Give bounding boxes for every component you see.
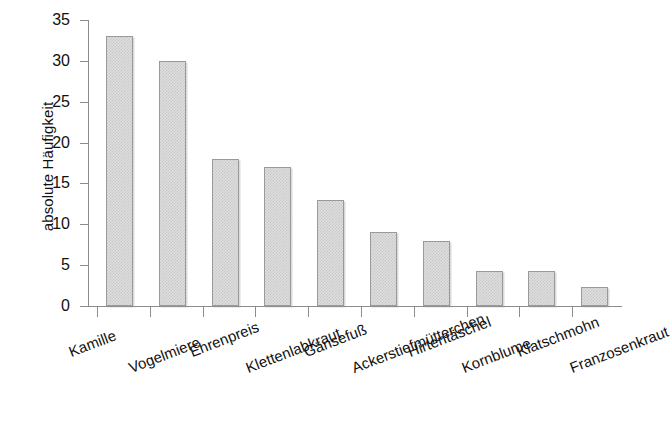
y-tick-label: 10 xyxy=(30,216,70,232)
x-axis-label: Gänsefuß xyxy=(301,321,368,359)
x-axis-label: Ehrenpreis xyxy=(188,319,261,359)
x-axis-label: Klatschmohn xyxy=(515,314,601,359)
bar xyxy=(581,287,608,306)
x-tick-mark xyxy=(414,307,415,317)
x-tick-mark xyxy=(308,307,309,317)
x-axis-label: Kornblume xyxy=(460,335,533,375)
x-tick-mark xyxy=(97,307,98,317)
x-tick-mark xyxy=(467,307,468,317)
x-axis-label: Vogelmiere xyxy=(127,334,202,375)
y-tick-mark xyxy=(80,306,89,307)
x-tick-mark xyxy=(203,307,204,317)
bar xyxy=(476,271,503,306)
x-tick-mark xyxy=(361,307,362,317)
x-axis-label: Klettenlabkraut xyxy=(244,325,343,375)
y-tick-label: 35 xyxy=(30,12,70,28)
x-tick-mark xyxy=(519,307,520,317)
bar xyxy=(423,241,450,306)
bar xyxy=(106,36,133,306)
x-axis-label: Franzosenkraut xyxy=(567,324,670,375)
bar xyxy=(264,167,291,306)
y-tick-label: 20 xyxy=(30,135,70,151)
x-axis-label: Kamille xyxy=(66,327,117,359)
y-tick-label: 15 xyxy=(30,175,70,191)
x-tick-mark xyxy=(572,307,573,317)
bar xyxy=(212,159,239,306)
x-tick-mark xyxy=(255,307,256,317)
y-tick-label: 25 xyxy=(30,94,70,110)
y-tick-label: 0 xyxy=(30,298,70,314)
x-tick-mark xyxy=(150,307,151,317)
bar xyxy=(159,61,186,306)
y-tick-label: 5 xyxy=(30,257,70,273)
y-axis-title: absolute Häufigkeit xyxy=(39,57,56,277)
plot-area xyxy=(88,20,618,306)
bar xyxy=(317,200,344,306)
x-axis-label: Hirtentäschel xyxy=(406,314,493,359)
bar xyxy=(370,232,397,306)
bar xyxy=(528,271,555,306)
y-tick-label: 30 xyxy=(30,53,70,69)
x-axis-line xyxy=(88,306,622,307)
x-axis-label: Ackerstiefmütterchen xyxy=(349,311,486,375)
